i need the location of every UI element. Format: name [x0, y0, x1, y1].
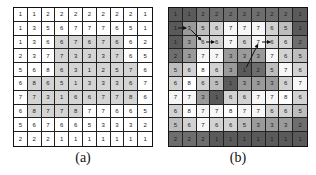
grid-cell: 7	[55, 105, 69, 119]
grid-cell: 1	[138, 132, 152, 146]
grid-cell: 1	[293, 8, 307, 22]
grid-cell: 5	[169, 63, 183, 77]
grid-cell: 6	[55, 63, 69, 77]
grid-cell: 2	[266, 8, 280, 22]
grid-cell: 2	[14, 132, 28, 146]
grid-cell: 6	[124, 49, 138, 63]
grid-cell: 1	[69, 132, 83, 146]
grid-cell: 2	[252, 63, 266, 77]
grid-cell: 3	[252, 77, 266, 91]
grid-cell: 6	[124, 36, 138, 50]
grid-cell: 6	[183, 118, 197, 132]
grid-cell: 2	[138, 118, 152, 132]
grid-cell: 6	[266, 105, 280, 119]
grid-cell: 6	[197, 36, 211, 50]
grid-cell: 8	[197, 63, 211, 77]
grid-cell: 1	[28, 8, 42, 22]
grid-cell: 1	[55, 91, 69, 105]
grid-cell: 2	[238, 8, 252, 22]
grid-cell: 2	[169, 132, 183, 146]
grid-cell: 6	[210, 36, 224, 50]
grid-cell: 7	[55, 49, 69, 63]
grid-cell: 7	[224, 22, 238, 36]
grid-cell: 1	[83, 132, 97, 146]
grid-cell: 6	[69, 118, 83, 132]
grid-cell: 6	[224, 91, 238, 105]
grid-cell: 5	[124, 22, 138, 36]
grid-cell: 3	[83, 77, 97, 91]
grid-cell: 3	[183, 49, 197, 63]
caption-a: (a)	[63, 150, 103, 166]
grid-cell: 6	[42, 77, 56, 91]
grid-cell: 3	[279, 118, 293, 132]
grid-cell: 7	[197, 49, 211, 63]
grid-cell: 6	[279, 77, 293, 91]
grid-cell: 7	[14, 91, 28, 105]
grid-cell: 1	[83, 63, 97, 77]
grid-cell: 6	[14, 105, 28, 119]
grid-cell: 2	[183, 132, 197, 146]
grid-cell: 1	[266, 132, 280, 146]
grid-cell: 2	[28, 132, 42, 146]
grid-cell: 5	[293, 105, 307, 119]
grid-cell: 5	[266, 63, 280, 77]
grid-cell: 7	[97, 22, 111, 36]
grid-cell: 5	[83, 118, 97, 132]
grid-cell: 3	[97, 118, 111, 132]
grid-cell: 7	[42, 105, 56, 119]
grid-cell: 7	[97, 105, 111, 119]
grid-cell: 5	[210, 77, 224, 91]
grid-cell: 6	[83, 36, 97, 50]
grid-cell: 5	[138, 105, 152, 119]
grid-cell: 6	[138, 91, 152, 105]
grid-cell: 1	[293, 22, 307, 36]
grid-cell: 2	[69, 8, 83, 22]
caption-b: (b)	[218, 150, 258, 166]
grid-cell: 8	[124, 91, 138, 105]
grid-cell: 7	[124, 63, 138, 77]
grid-cell: 7	[238, 22, 252, 36]
grid-cell: 7	[238, 105, 252, 119]
grid-cell: 7	[169, 91, 183, 105]
grid-cell: 6	[138, 63, 152, 77]
grid-cell: 2	[124, 8, 138, 22]
grid-cell: 3	[238, 77, 252, 91]
grid-cell: 8	[28, 77, 42, 91]
grid-cell: 6	[124, 77, 138, 91]
grid-cell: 7	[83, 105, 97, 119]
grid-cell: 3	[83, 49, 97, 63]
grid-cell: 8	[42, 63, 56, 77]
grid-cell: 3	[42, 91, 56, 105]
grid-cell: 5	[138, 49, 152, 63]
grid-cell: 1	[252, 132, 266, 146]
grid-cell: 1	[183, 8, 197, 22]
grid-cell: 3	[266, 118, 280, 132]
grid-cell: 6	[293, 63, 307, 77]
grid-cell: 7	[83, 22, 97, 36]
grid-cell: 2	[55, 8, 69, 22]
grid-cell: 6	[55, 36, 69, 50]
grid-cell: 6	[111, 36, 125, 50]
grid-cell: 3	[97, 49, 111, 63]
grid-cell: 7	[183, 91, 197, 105]
grid-b: 1122222221135677765113667676622377333765…	[168, 7, 308, 147]
grid-cell: 6	[279, 36, 293, 50]
grid-cell: 5	[169, 118, 183, 132]
grid-cell: 7	[28, 91, 42, 105]
grid-cell: 3	[197, 91, 211, 105]
grid-cell: 1	[14, 8, 28, 22]
grid-cell: 2	[293, 118, 307, 132]
grid-cell: 1	[14, 36, 28, 50]
grid-cell: 3	[28, 36, 42, 50]
grid-cell: 6	[210, 63, 224, 77]
grid-cell: 1	[293, 132, 307, 146]
grid-cell: 8	[28, 105, 42, 119]
grid-cell: 5	[111, 63, 125, 77]
grid-cell: 2	[224, 8, 238, 22]
grid-cell: 5	[197, 22, 211, 36]
grid-cell: 3	[252, 49, 266, 63]
grid-cell: 5	[42, 22, 56, 36]
grid-cell: 7	[252, 22, 266, 36]
grid-cell: 7	[197, 105, 211, 119]
grid-cell: 7	[69, 22, 83, 36]
